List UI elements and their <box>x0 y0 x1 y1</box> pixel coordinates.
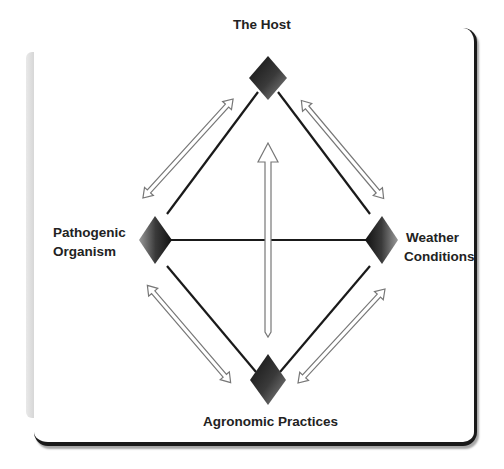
marker-host <box>249 56 287 100</box>
marker-weather <box>365 216 398 264</box>
marker-pathogen <box>139 216 172 264</box>
host-label-text: The Host <box>233 17 291 32</box>
weather-label-line2: Conditions <box>404 247 475 266</box>
pathogen-label-line2: Organism <box>53 242 126 261</box>
node-label-host: The Host <box>233 15 291 34</box>
node-label-pathogen: Pathogenic Organism <box>53 223 126 261</box>
arrow-pathogen-agro <box>143 282 235 387</box>
weather-label-line1: Weather <box>404 228 475 247</box>
marker-agro <box>250 354 286 405</box>
node-label-agronomic: Agronomic Practices <box>203 412 338 431</box>
pathogen-label-line1: Pathogenic <box>53 223 126 242</box>
arrow-host-weather <box>297 97 388 203</box>
agronomic-label-text: Agronomic Practices <box>203 414 338 429</box>
edge-host-weather <box>278 92 370 214</box>
node-label-weather: Weather Conditions <box>404 228 475 266</box>
